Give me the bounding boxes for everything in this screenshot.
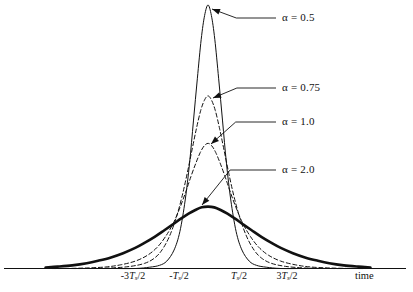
leader-arrowhead-0 bbox=[212, 9, 221, 15]
series-label-alpha-2-0: α = 2.0 bbox=[282, 163, 315, 175]
curve-alpha-2 bbox=[46, 207, 371, 268]
curves-group bbox=[46, 5, 371, 269]
curve-alpha-0-5 bbox=[46, 5, 371, 269]
series-label-alpha-1-0: α = 1.0 bbox=[282, 115, 315, 127]
leader-line-1 bbox=[213, 88, 276, 98]
x-tick-label-neg-ts-2: -Ts/2 bbox=[169, 270, 188, 282]
annotation-leader-lines bbox=[202, 9, 276, 205]
leader-arrowhead-3 bbox=[202, 197, 209, 205]
leader-line-3 bbox=[202, 170, 276, 205]
x-axis-title: time bbox=[355, 270, 374, 281]
x-tick-label-ts-2: Ts/2 bbox=[231, 270, 247, 282]
series-label-alpha-0-5: α = 0.5 bbox=[282, 11, 315, 23]
pulse-response-plot bbox=[0, 0, 413, 292]
curve-alpha-0-75 bbox=[46, 96, 371, 269]
x-tick-label-neg-3ts-2: -3Ts/2 bbox=[121, 270, 145, 282]
leader-line-0 bbox=[212, 9, 276, 18]
series-label-alpha-0-75: α = 0.75 bbox=[282, 81, 320, 93]
x-tick-label-3ts-2: 3Ts/2 bbox=[276, 270, 297, 282]
raised-cosine-pulse-figure: α = 0.5 α = 0.75 α = 1.0 α = 2.0 -3Ts/2 … bbox=[0, 0, 413, 292]
